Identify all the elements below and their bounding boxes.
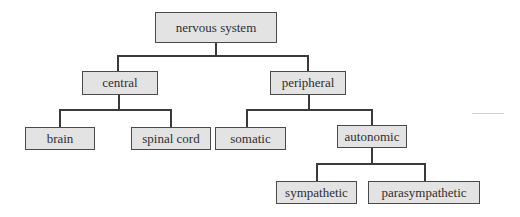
node-sympathetic: sympathetic bbox=[276, 181, 357, 204]
connector-to-spinal-cord bbox=[170, 109, 172, 127]
connector-central-down bbox=[118, 94, 120, 110]
faint-rule bbox=[472, 113, 504, 114]
node-brain: brain bbox=[25, 127, 95, 150]
connector-peripheral-down bbox=[308, 94, 310, 110]
node-parasympathetic: parasympathetic bbox=[368, 181, 480, 204]
connector-level1-bar bbox=[117, 55, 309, 57]
connector-peripheral-bar bbox=[246, 109, 372, 111]
connector-root-down bbox=[215, 42, 217, 56]
node-spinal-cord: spinal cord bbox=[131, 127, 211, 150]
connector-to-peripheral bbox=[307, 55, 309, 71]
node-autonomic: autonomic bbox=[337, 125, 407, 148]
connector-autonomic-down bbox=[371, 147, 373, 164]
connector-to-somatic bbox=[246, 109, 248, 127]
connector-autonomic-bar bbox=[316, 163, 426, 165]
connector-to-parasympathetic bbox=[424, 163, 426, 181]
connector-central-bar bbox=[59, 109, 171, 111]
node-peripheral: peripheral bbox=[270, 71, 346, 95]
connector-to-sympathetic bbox=[316, 163, 318, 181]
connector-to-central bbox=[117, 55, 119, 71]
connector-to-autonomic bbox=[371, 109, 373, 125]
node-nervous-system: nervous system bbox=[155, 12, 277, 43]
connector-to-brain bbox=[59, 109, 61, 127]
node-somatic: somatic bbox=[215, 127, 286, 150]
node-central: central bbox=[82, 71, 158, 95]
